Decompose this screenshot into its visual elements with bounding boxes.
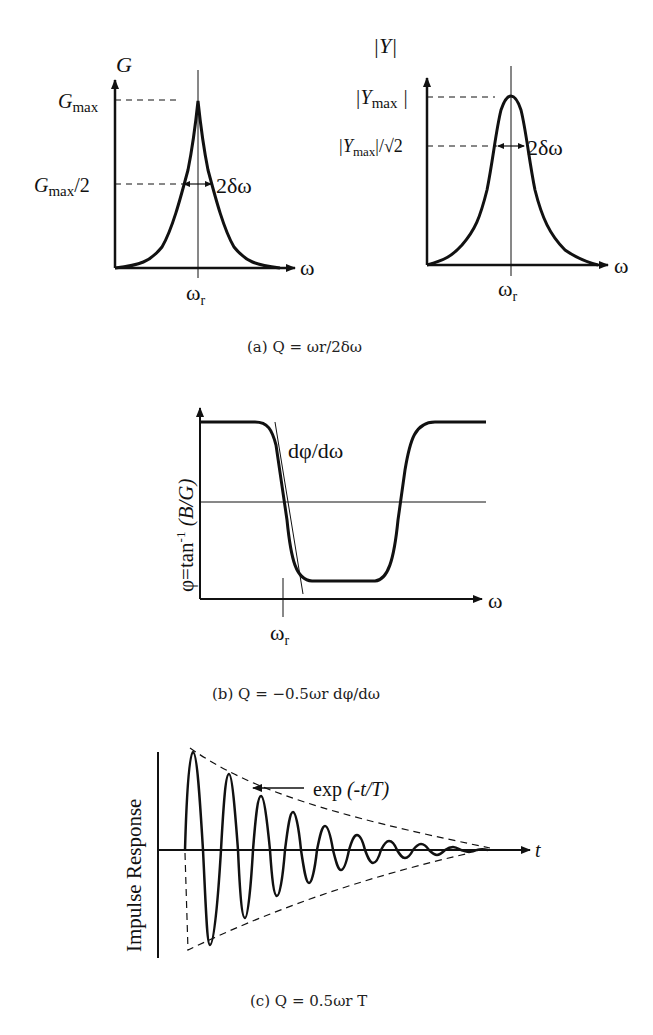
width-label: 2δω <box>216 173 252 198</box>
ymax-label: |Ymax | <box>355 86 408 111</box>
y-axis-label: φ=tan-1 (B/G) <box>173 478 198 592</box>
plot-b: dφ/dω ω ωr φ=tan-1 (B/G) <box>173 408 502 648</box>
plot-a-right: |Y| |Ymax | |Ymax|/√2 2δω ω ωr <box>338 33 628 304</box>
caption-a: (a) Q = ωr/2δω <box>247 338 362 356</box>
x-axis-label: ω <box>300 255 314 280</box>
slope-label: dφ/dω <box>288 438 343 463</box>
y-axis-label: |Y| <box>373 33 397 58</box>
ymax-root2-label: |Ymax|/√2 <box>338 136 403 159</box>
caption-b: (b) Q = −0.5ωr dφ/dω <box>212 685 380 703</box>
center-label: ωr <box>186 280 205 308</box>
x-axis-label: ω <box>614 253 628 278</box>
envelope-label: exp (-t/T) <box>313 778 389 801</box>
t-axis-label: t <box>535 839 541 861</box>
gmax-half-label: Gmax/2 <box>34 174 90 199</box>
gmax-label: Gmax <box>58 90 99 115</box>
x-axis-label: ω <box>488 588 502 613</box>
plot-c: exp (-t/T) t Impulse Response <box>122 748 541 958</box>
plot-a-left: G ω Gmax Gmax/2 2δω ωr <box>34 52 314 308</box>
figure-canvas: G ω Gmax Gmax/2 2δω ωr |Y| |Ymax | |Ymax… <box>0 0 653 1035</box>
y-axis-label: Impulse Response <box>122 799 146 952</box>
resonance-curve <box>427 96 598 265</box>
center-label: ωr <box>270 620 289 648</box>
center-label: ωr <box>498 276 517 304</box>
lower-envelope <box>185 853 470 950</box>
caption-c: (c) Q = 0.5ωr T <box>250 992 367 1010</box>
y-axis-label: G <box>116 52 132 77</box>
width-label: 2δω <box>527 135 563 160</box>
